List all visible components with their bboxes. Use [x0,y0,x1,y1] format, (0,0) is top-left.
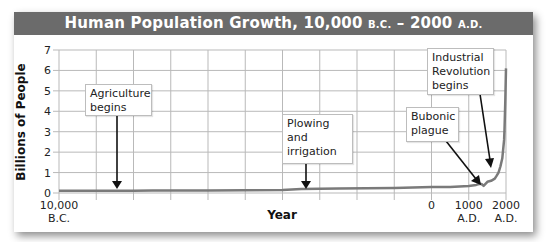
y-tick-label: 6 [44,64,51,77]
y-tick-label: 5 [44,85,51,98]
annotation-line: begins [432,79,489,93]
annotation-line: plague [411,124,454,138]
annotation-line: Industrial [432,51,489,65]
y-tick-label: 7 [44,44,51,57]
annotation-line: Bubonic [411,110,454,124]
y-tick-label: 4 [44,105,51,118]
annotation-industrial-revolution: Industrial Revolution begins [427,48,494,95]
x-tick-label: 0 [428,199,435,212]
x-tick-label: 1000 [455,199,483,212]
y-tick-label: 1 [44,167,51,180]
x-tick-sublabel: A.D. [457,212,480,225]
annotation-line: and [287,131,348,145]
annotation-agriculture: Agriculture begins [85,84,152,116]
annotation-line: irrigation [287,145,348,159]
annotation-plowing: Plowing and irrigation [282,114,353,164]
x-tick-label: 2000 [492,199,520,212]
annotation-bubonic-plague: Bubonic plague [406,107,459,142]
x-tick-sublabel: B.C. [48,212,70,225]
y-axis-label: Billions of People [14,63,28,180]
x-tick-sublabel: A.D. [495,212,518,225]
annotation-line: Agriculture [90,87,147,101]
plague-arrowhead [471,175,481,185]
x-tick-label: 10,000 [40,199,79,212]
industrial-arrow [480,94,490,160]
y-tick-label: 2 [44,146,51,159]
industrial-arrowhead [485,158,494,168]
y-axis-ticks: 01234567 [44,44,51,200]
y-tick-label: 3 [44,126,51,139]
annotation-line: Plowing [287,117,348,131]
x-axis-label: Year [266,208,297,222]
agriculture-arrowhead [112,181,122,189]
plague-arrow [446,141,476,179]
annotation-line: Revolution [432,65,489,79]
annotation-line: begins [90,101,147,115]
chart-plot: 01234567 10,000B.C.01000A.D.2000A.D. Bil… [0,0,552,242]
